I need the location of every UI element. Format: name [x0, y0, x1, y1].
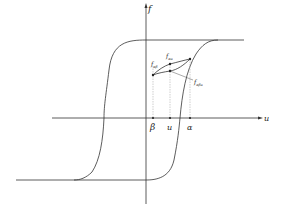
point-alpha-upper [189, 58, 191, 60]
beta-label: β [149, 122, 155, 132]
f-abu-leader [170, 71, 193, 80]
descending-branch [74, 40, 146, 180]
f-au-label: fαu [165, 52, 174, 61]
u-axis-label: u [264, 114, 269, 123]
lower-reversal-curve [153, 59, 190, 75]
f-ab-label: fαβ [150, 60, 158, 69]
f-axis-label: f [147, 4, 153, 14]
alpha-label: α [187, 123, 193, 132]
hysteresis-diagram: f u β u α fαβ fαu fαβu [0, 0, 282, 217]
point-f-au [169, 63, 171, 65]
f-abu-label: fαβu [193, 78, 204, 87]
u-tick-label: u [167, 123, 172, 132]
u-axis-arrow-icon [258, 117, 263, 120]
upper-reversal-curve [153, 59, 190, 75]
tick-u [169, 117, 171, 119]
point-f-abu [169, 70, 171, 72]
tick-beta [152, 117, 154, 119]
point-f-ab [152, 74, 154, 76]
tick-alpha [189, 117, 191, 119]
